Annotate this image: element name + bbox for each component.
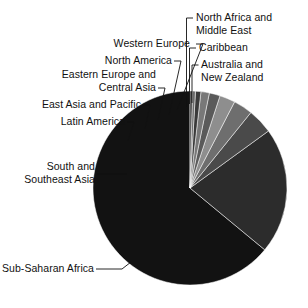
pie-chart-figure: North Africa and Middle East Caribbean A… xyxy=(0,0,308,308)
slice-label-western-europe: Western Europe xyxy=(114,37,190,50)
slice-label-north-america: North America xyxy=(105,54,172,67)
slice-label-line-2: Southeast Asia xyxy=(24,173,95,186)
slice-label-australia-and-new-zealand: Australia and New Zealand xyxy=(201,58,263,83)
slice-label-line-2: Middle East xyxy=(196,24,272,37)
slice-label-south-and-southeast-asia: South and Southeast Asia xyxy=(24,160,95,185)
slice-label-caribbean: Caribbean xyxy=(199,41,248,54)
slice-label-eastern-europe-and-central-asia: Eastern Europe and Central Asia xyxy=(62,68,156,93)
slice-label-north-africa-and-middle-east: North Africa and Middle East xyxy=(196,11,272,36)
slice-label-line-2: Central Asia xyxy=(62,81,156,94)
slice-label-east-asia-and-pacific: East Asia and Pacific xyxy=(42,98,141,111)
slice-label-line-1: Eastern Europe and xyxy=(62,68,156,81)
slice-label-line-1: South and xyxy=(24,160,95,173)
slice-label-sub-saharan-africa: Sub-Saharan Africa xyxy=(2,262,94,275)
leader-line-sub-saharan xyxy=(96,262,131,269)
slice-label-line-2: New Zealand xyxy=(201,71,263,84)
slice-label-latin-america: Latin America xyxy=(61,115,125,128)
slice-label-line-1: North Africa and xyxy=(196,11,272,24)
slice-label-line-1: Australia and xyxy=(201,58,263,71)
